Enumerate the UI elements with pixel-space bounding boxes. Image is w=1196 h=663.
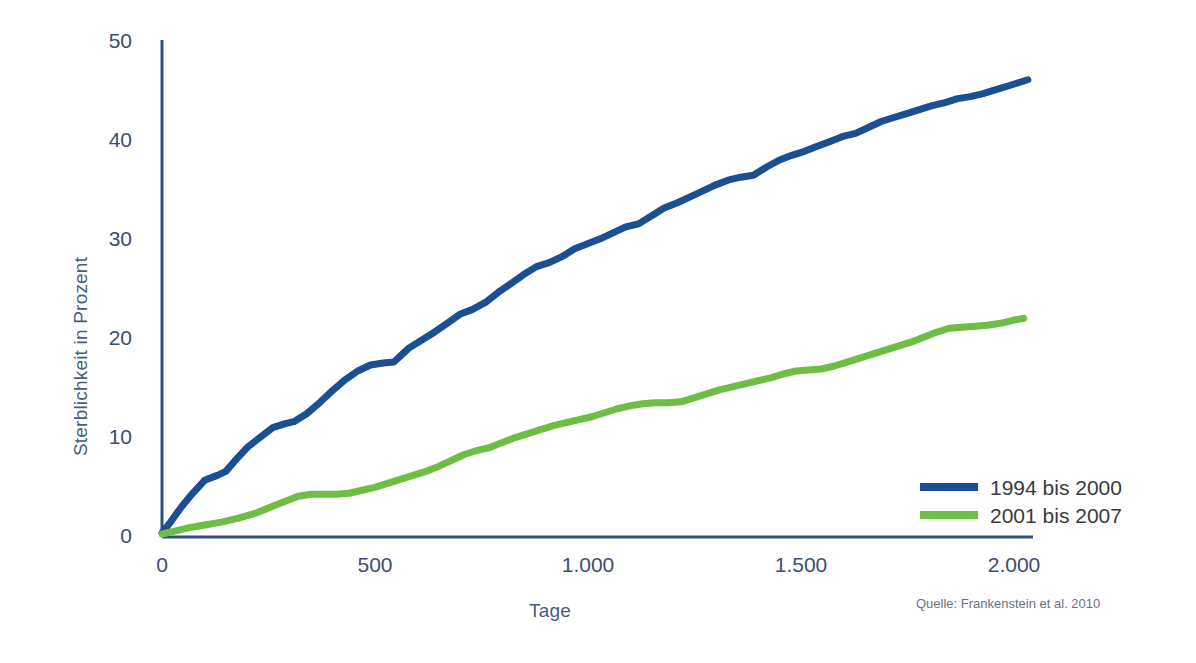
source-note: Quelle: Frankenstein et al. 2010 xyxy=(916,596,1100,611)
mortality-line-chart: Sterblichkeit in Prozent Tage 50 40 30 2… xyxy=(0,0,1196,663)
legend xyxy=(920,487,978,515)
plot-area xyxy=(0,0,1196,663)
series-line-1994-2000 xyxy=(162,80,1028,533)
series-line-2001-2007 xyxy=(162,318,1024,534)
legend-label-2001-2007: 2001 bis 2007 xyxy=(990,504,1122,528)
legend-label-1994-2000: 1994 bis 2000 xyxy=(990,476,1122,500)
